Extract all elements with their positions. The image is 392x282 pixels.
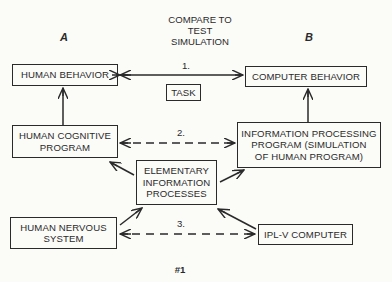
node-label: COMPUTER BEHAVIOR xyxy=(252,71,360,83)
figure-number: #1 xyxy=(165,264,195,275)
node-label-line: SYSTEM xyxy=(43,233,83,245)
header-line: TEST xyxy=(150,25,250,36)
node-information-processing-program: INFORMATION PROCESSING PROGRAM (SIMULATI… xyxy=(237,122,381,168)
edge-label-2: 2. xyxy=(171,127,191,138)
node-human-nervous-system: HUMAN NERVOUS SYSTEM xyxy=(10,217,117,249)
node-iplv-computer: IPL-V COMPUTER xyxy=(258,224,353,245)
edge-eip-to-ipp xyxy=(220,170,244,182)
node-label: HUMAN BEHAVIOR xyxy=(21,69,109,81)
node-label: TASK xyxy=(171,87,196,99)
node-label-line: INFORMATION PROCESSING xyxy=(241,128,376,140)
node-label-line: HUMAN NERVOUS xyxy=(20,222,106,234)
edge-eip-to-cognitive xyxy=(110,162,134,175)
node-elementary-information-processes: ELEMENTARY INFORMATION PROCESSES xyxy=(136,160,217,205)
edge-nervous-to-eip xyxy=(120,208,142,225)
compare-header: COMPARE TO TEST SIMULATION xyxy=(150,14,250,47)
node-label-line: PROGRAM xyxy=(40,142,90,154)
edge-label-1: 1. xyxy=(176,60,196,71)
node-task: TASK xyxy=(166,84,201,101)
node-label: IPL-V COMPUTER xyxy=(264,229,347,241)
header-line: COMPARE TO xyxy=(150,14,250,25)
node-human-behavior: HUMAN BEHAVIOR xyxy=(12,64,118,86)
edge-iplv-to-eip xyxy=(218,209,256,229)
node-label-line: PROCESSES xyxy=(146,188,207,200)
node-human-cognitive-program: HUMAN COGNITIVE PROGRAM xyxy=(12,125,118,158)
column-label-b: B xyxy=(305,31,313,43)
node-computer-behavior: COMPUTER BEHAVIOR xyxy=(245,66,367,87)
node-label-line: ELEMENTARY xyxy=(144,165,209,177)
node-label-line: PROGRAM (SIMULATION xyxy=(251,139,366,151)
node-label-line: OF HUMAN PROGRAM) xyxy=(255,151,363,163)
node-label-line: HUMAN COGNITIVE xyxy=(19,130,111,142)
column-label-a: A xyxy=(60,31,68,43)
header-line: SIMULATION xyxy=(150,36,250,47)
node-label-line: INFORMATION xyxy=(143,177,211,189)
edge-label-3: 3. xyxy=(171,218,191,229)
